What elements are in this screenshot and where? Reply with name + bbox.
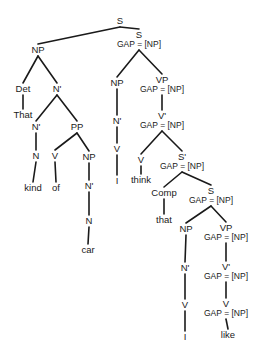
tree-edge-vbar_gap-sbar_gap xyxy=(162,131,182,151)
node-label: V xyxy=(114,143,121,154)
node-label: VP xyxy=(156,74,169,85)
node-label: N xyxy=(86,215,93,226)
gap-feature-label: GAP = [NP] xyxy=(160,161,204,171)
syntax-tree-diagram: SNPSGAP = [NP]DetN'ThatN'PPNVNPkindofN'N… xyxy=(0,0,261,359)
node-nbar_2: N' xyxy=(32,121,41,132)
gap-feature-label: GAP = [NP] xyxy=(204,232,248,242)
node-label: S xyxy=(136,29,142,40)
node-label: Comp xyxy=(151,187,176,198)
node-label: V' xyxy=(158,110,166,121)
node-nbar_car: N' xyxy=(85,180,94,191)
tree-edge-n_car-car xyxy=(88,227,89,244)
gap-feature-label: GAP = [NP] xyxy=(189,195,233,205)
leaf-word-car: car xyxy=(81,244,94,255)
node-label: I xyxy=(116,175,119,186)
node-nbar_mid: N' xyxy=(113,115,122,126)
tree-edge-sbar_gap-s_low_gap xyxy=(182,172,211,185)
node-label: N' xyxy=(113,115,122,126)
tree-edges xyxy=(23,27,228,331)
node-pp: PP xyxy=(71,121,84,132)
node-label: V xyxy=(223,298,230,309)
node-nbar_low: N' xyxy=(181,262,190,273)
node-vp_low_gap: VPGAP = [NP] xyxy=(204,222,248,243)
node-nbar_1: N' xyxy=(53,83,62,94)
node-np_subj: NP xyxy=(31,44,44,55)
node-label: S xyxy=(208,185,214,196)
node-det: Det xyxy=(16,83,31,94)
node-vbar_gap: V'GAP = [NP] xyxy=(140,110,184,131)
tree-edge-v_of-of xyxy=(55,162,56,182)
tree-edge-pp-np_car xyxy=(77,133,89,151)
node-s_low_gap: SGAP = [NP] xyxy=(189,185,233,206)
tree-edge-nbar_1-pp xyxy=(57,95,77,121)
gap-feature-label: GAP = [NP] xyxy=(204,271,248,281)
leaf-word-i_mid: I xyxy=(116,175,119,186)
node-s_root: S xyxy=(117,15,123,26)
node-label: S xyxy=(117,15,123,26)
node-label: NP xyxy=(179,223,192,234)
leaf-word-of: of xyxy=(52,182,60,193)
node-label: Det xyxy=(16,83,31,94)
node-label: VP xyxy=(220,222,233,233)
leaf-word-like: like xyxy=(221,329,235,340)
node-label: N' xyxy=(85,180,94,191)
tree-edge-np_subj-nbar_1 xyxy=(38,56,57,83)
node-label: NP xyxy=(110,77,123,88)
leaf-word-think: think xyxy=(131,174,151,185)
node-comp: Comp xyxy=(151,187,176,198)
node-label: V xyxy=(182,299,189,310)
node-v_think: V xyxy=(138,154,145,165)
gap-feature-label: GAP = [NP] xyxy=(140,120,184,130)
leaf-word-kind: kind xyxy=(24,182,41,193)
node-np_low: NP xyxy=(179,223,192,234)
node-n_kind: N xyxy=(33,150,40,161)
tree-edge-s_gap-np_mid xyxy=(117,50,139,77)
node-label: S' xyxy=(178,151,186,162)
leaf-word-i_low: I xyxy=(184,331,187,342)
node-v_low: V xyxy=(182,299,189,310)
gap-feature-label: GAP = [NP] xyxy=(117,39,161,49)
node-label: N' xyxy=(32,121,41,132)
node-label: NP xyxy=(31,44,44,55)
node-sbar_gap: S'GAP = [NP] xyxy=(160,151,204,172)
node-label: I xyxy=(184,331,187,342)
tree-edge-np_subj-det xyxy=(23,56,38,83)
tree-edge-vbar_gap-v_think xyxy=(141,131,162,154)
tree-edge-s_gap-vp_gap xyxy=(139,50,162,74)
tree-edge-np_low-nbar_low xyxy=(185,235,186,262)
tree-nodes: SNPSGAP = [NP]DetN'ThatN'PPNVNPkindofN'N… xyxy=(13,15,248,342)
gap-feature-label: GAP = [NP] xyxy=(204,308,248,318)
node-v_of: V xyxy=(52,150,59,161)
node-label: That xyxy=(13,109,32,120)
node-label: car xyxy=(81,244,94,255)
tree-edge-s_root-np_subj xyxy=(38,27,120,44)
tree-edge-nbar_1-nbar_2 xyxy=(36,95,57,121)
node-v_like_gap: VGAP = [NP] xyxy=(204,298,248,319)
node-label: PP xyxy=(71,121,84,132)
node-label: that xyxy=(156,214,172,225)
tree-edge-s_low_gap-np_low xyxy=(186,206,211,223)
node-label: of xyxy=(52,182,60,193)
node-np_car: NP xyxy=(82,151,95,162)
leaf-word-that_comp: that xyxy=(156,214,172,225)
tree-edge-sbar_gap-comp xyxy=(164,172,182,187)
tree-edge-n_kind-kind xyxy=(33,162,36,182)
node-s_gap: SGAP = [NP] xyxy=(117,29,161,50)
node-label: NP xyxy=(82,151,95,162)
node-label: think xyxy=(131,174,151,185)
node-label: N' xyxy=(181,262,190,273)
tree-edge-s_low_gap-vp_low_gap xyxy=(211,206,226,222)
node-np_mid: NP xyxy=(110,77,123,88)
node-label: V xyxy=(138,154,145,165)
leaf-word-that_det: That xyxy=(13,109,32,120)
tree-edge-pp-v_of xyxy=(55,133,77,150)
tree-edge-v_like_gap-like xyxy=(226,319,228,329)
node-label: V xyxy=(52,150,59,161)
node-label: V' xyxy=(222,261,230,272)
node-label: like xyxy=(221,329,235,340)
gap-feature-label: GAP = [NP] xyxy=(140,84,184,94)
node-v_mid: V xyxy=(114,143,121,154)
node-label: N xyxy=(33,150,40,161)
node-n_car: N xyxy=(86,215,93,226)
node-vp_gap: VPGAP = [NP] xyxy=(140,74,184,95)
